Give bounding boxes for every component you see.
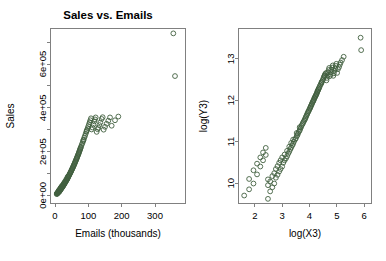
data-point bbox=[255, 172, 260, 177]
figure-canvas: Sales vs. Emails 01002003000e+002e+054e+… bbox=[0, 0, 386, 261]
y-axis-title: Sales bbox=[5, 103, 16, 128]
y-tick-label: 13 bbox=[225, 54, 236, 65]
y-tick-label: 6e+05 bbox=[37, 51, 48, 78]
left-plot-svg: Sales vs. Emails 01002003000e+002e+054e+… bbox=[0, 0, 193, 261]
x-tick-label: 200 bbox=[114, 210, 130, 221]
x-tick-label: 3 bbox=[280, 210, 285, 221]
data-point bbox=[266, 196, 271, 201]
x-tick-label: 6 bbox=[362, 210, 367, 221]
y-tick-label: 12 bbox=[225, 95, 236, 106]
y-tick-label: 4e+05 bbox=[37, 94, 48, 121]
x-tick-label: 4 bbox=[307, 210, 312, 221]
data-point bbox=[258, 164, 263, 169]
data-point bbox=[258, 155, 263, 160]
y-tick-label: 2e+05 bbox=[37, 138, 48, 165]
x-axis-title: Emails (thousands) bbox=[75, 228, 161, 239]
scatter-panel-log-log: 2345610111213 log(X3) log(Y3) bbox=[193, 0, 386, 261]
x-tick-label: 300 bbox=[147, 210, 163, 221]
right-data-points bbox=[242, 35, 364, 201]
x-tick-label: 0 bbox=[52, 210, 57, 221]
data-point bbox=[101, 127, 106, 132]
x-tick-label: 5 bbox=[334, 210, 339, 221]
data-point bbox=[242, 193, 247, 198]
data-point bbox=[359, 48, 364, 53]
data-point bbox=[358, 35, 363, 40]
x-tick-label: 100 bbox=[80, 210, 96, 221]
data-point bbox=[171, 31, 176, 36]
page-title: Sales vs. Emails bbox=[63, 9, 153, 21]
x-tick-label: 2 bbox=[252, 210, 257, 221]
data-point bbox=[247, 187, 252, 192]
left-data-points bbox=[54, 31, 177, 196]
scatter-panel-sales-vs-emails: Sales vs. Emails 01002003000e+002e+054e+… bbox=[0, 0, 193, 261]
data-point bbox=[109, 123, 114, 128]
y-tick-label: 11 bbox=[225, 137, 236, 147]
y-axis-title: log(Y3) bbox=[198, 100, 209, 132]
data-point bbox=[251, 181, 256, 186]
data-point bbox=[116, 114, 121, 119]
data-point bbox=[251, 168, 256, 173]
x-axis-title: log(X3) bbox=[289, 228, 321, 239]
y-tick-label: 10 bbox=[225, 178, 236, 189]
right-plot-svg: 2345610111213 log(X3) log(Y3) bbox=[193, 0, 386, 261]
data-point bbox=[261, 158, 266, 163]
data-point bbox=[173, 74, 178, 79]
data-point bbox=[247, 177, 252, 182]
y-tick-label: 0e+00 bbox=[37, 182, 48, 209]
data-point bbox=[263, 146, 268, 151]
